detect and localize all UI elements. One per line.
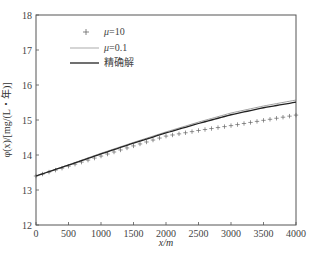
series-mu-10-markers <box>34 113 298 178</box>
y-tick-label: 14 <box>22 150 32 161</box>
legend-item-mu-10: μ=10 <box>83 26 125 37</box>
legend-item-mu-0-1: μ=0.1 <box>70 42 127 53</box>
y-tick-label: 18 <box>22 10 32 21</box>
y-tick-label: 16 <box>22 80 32 91</box>
y-axis-title: φ(x)/[mg/(L・年)] <box>0 82 13 157</box>
x-tick-label: 3500 <box>254 228 274 239</box>
legend: μ=10μ=0.1精确解 <box>70 26 134 68</box>
x-tick-label: 2500 <box>189 228 209 239</box>
axes: 0500100015002000250030003500400012131415… <box>22 10 306 240</box>
x-tick-label: 1000 <box>91 228 111 239</box>
legend-item-exact: 精确解 <box>70 56 134 68</box>
x-tick-label: 500 <box>61 228 76 239</box>
legend-label: μ=0.1 <box>103 42 127 53</box>
x-tick-label: 4000 <box>286 228 306 239</box>
x-tick-label: 1500 <box>124 228 144 239</box>
y-tick-label: 13 <box>22 185 32 196</box>
legend-label: μ=10 <box>103 26 125 37</box>
y-tick-label: 17 <box>22 45 32 56</box>
x-tick-label: 3000 <box>221 228 241 239</box>
y-tick-label: 12 <box>22 220 32 231</box>
series-layer <box>34 100 298 178</box>
chart: 0500100015002000250030003500400012131415… <box>0 0 314 262</box>
legend-label: 精确解 <box>104 56 134 68</box>
x-axis-title: x/m <box>158 237 173 248</box>
x-tick-label: 0 <box>34 228 39 239</box>
y-tick-label: 15 <box>22 115 32 126</box>
